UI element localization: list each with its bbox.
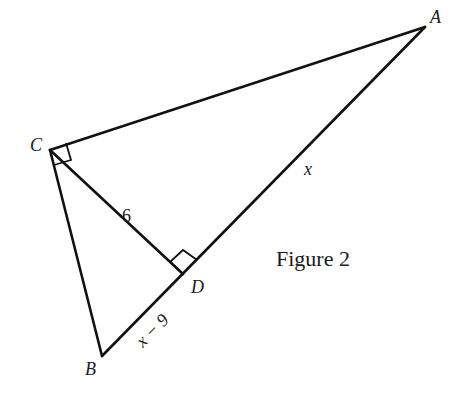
vertex-label-a: A bbox=[429, 7, 442, 27]
right-angle-mark-d bbox=[170, 250, 197, 262]
vertex-label-c: C bbox=[30, 135, 43, 155]
altitude-cd bbox=[50, 150, 183, 274]
vertex-label-d: D bbox=[190, 277, 204, 297]
triangle-figure: A C B D 6 x x − 9 Figure 2 bbox=[0, 0, 472, 397]
edge-ca bbox=[50, 27, 425, 150]
segment-label-bd: x − 9 bbox=[131, 310, 173, 352]
edge-ab bbox=[102, 27, 425, 356]
figure-caption: Figure 2 bbox=[276, 246, 350, 271]
edge-cb bbox=[50, 150, 102, 356]
vertex-label-b: B bbox=[85, 359, 96, 379]
segment-label-cd: 6 bbox=[122, 206, 131, 226]
segment-label-ad: x bbox=[303, 159, 312, 179]
